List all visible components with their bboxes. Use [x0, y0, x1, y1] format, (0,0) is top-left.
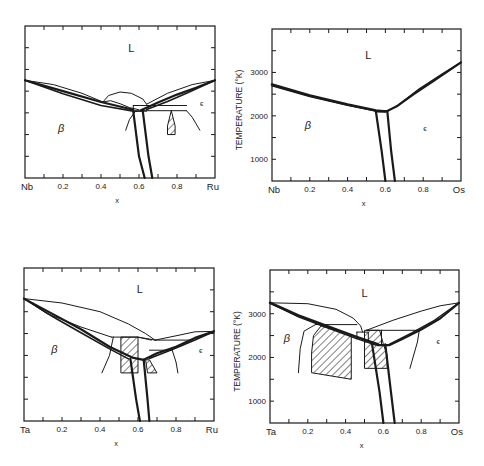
x-tick-label: 0.4 — [95, 182, 107, 191]
two-phase-hatched-region — [121, 337, 138, 373]
x-tick-label: 0.2 — [57, 182, 69, 191]
panel-ta-ru: 0.20.40.60.8TaRuxLβϵ — [20, 268, 218, 448]
phase-boundary-line — [272, 85, 385, 112]
phase-region-label: L — [361, 287, 367, 299]
y-axis-label: TEMPERATURE (°K) — [234, 69, 244, 150]
phase-boundary-line — [24, 299, 129, 359]
phase-region-label: ϵ — [200, 99, 204, 108]
x-tick-label: 0.8 — [418, 185, 430, 194]
phase-boundary-line — [389, 303, 459, 345]
phase-boundary-line — [410, 330, 419, 368]
plot-frame — [25, 26, 215, 178]
phase-diagram-figure: 0.20.40.60.8NbRuxLβϵ 0.20.40.60.8NbOsx10… — [0, 0, 484, 466]
panel-ta-os: 0.20.40.60.8TaOsx100020003000TEMPERATURE… — [232, 270, 463, 450]
x-tick-label: 0.8 — [171, 182, 183, 191]
phase-boundary-line — [143, 111, 153, 178]
phase-boundary-line — [187, 111, 200, 131]
x-tick-label: 0.6 — [133, 182, 145, 191]
x-tick-label: 0.8 — [170, 425, 182, 434]
two-phase-hatched-region — [146, 360, 157, 373]
two-phase-hatched-region — [168, 111, 176, 135]
y-axis-label: TEMPERATURE (°K) — [232, 311, 242, 392]
left-element-label: Ta — [20, 424, 31, 435]
y-tick-label: 1000 — [250, 155, 268, 164]
phase-region-label: ϵ — [423, 124, 427, 133]
phase-boundary-line — [103, 92, 147, 104]
phase-boundary-line — [366, 303, 459, 331]
phase-region-label: L — [128, 42, 134, 54]
x-tick-label: 0.2 — [56, 425, 68, 434]
x-tick-label: 0.4 — [340, 427, 352, 436]
right-element-label: Ru — [206, 424, 218, 435]
phase-region-label: L — [137, 283, 143, 295]
x-tick-label: 0.8 — [416, 427, 428, 436]
y-tick-label: 3000 — [250, 68, 268, 77]
phase-boundary-line — [149, 331, 214, 358]
phase-region-label: β — [57, 122, 65, 134]
phase-region-label: ϵ — [436, 337, 440, 346]
y-tick-label: 3000 — [248, 310, 266, 319]
x-tick-label: 0.2 — [304, 185, 316, 194]
x-tick-label: 0.6 — [132, 425, 144, 434]
phase-boundary-line — [387, 111, 395, 181]
phase-boundary-line — [25, 80, 133, 110]
y-tick-label: 2000 — [248, 353, 266, 362]
x-tick-label: 0.4 — [94, 425, 106, 434]
panel-nb-ru: 0.20.40.60.8NbRuxLβϵ — [21, 26, 219, 205]
phase-region-label: ϵ — [199, 346, 203, 355]
phase-region-label: β — [50, 343, 58, 355]
left-element-label: Ta — [266, 426, 277, 437]
phase-region-label: β — [283, 332, 291, 344]
phase-boundary-line — [133, 111, 146, 112]
panel-nb-os: 0.20.40.60.8NbOsx100020003000TEMPERATURE… — [234, 29, 465, 208]
y-tick-label: 2000 — [250, 112, 268, 121]
phase-region-label: β — [304, 119, 312, 131]
phase-boundary-line — [270, 303, 363, 332]
left-element-label: Nb — [21, 181, 33, 192]
x-tick-label: 0.6 — [380, 185, 392, 194]
phase-boundary-line — [376, 112, 386, 182]
right-element-label: Ru — [207, 181, 219, 192]
right-element-label: Os — [453, 184, 465, 195]
left-element-label: Nb — [268, 184, 280, 195]
x-tick-label: 0.6 — [378, 427, 390, 436]
x-axis-label: x — [115, 196, 119, 205]
phase-region-label: L — [365, 49, 371, 61]
x-tick-label: 0.2 — [302, 427, 314, 436]
y-tick-label: 1000 — [248, 397, 266, 406]
x-axis-label: x — [360, 441, 364, 450]
phase-boundary-line — [133, 112, 144, 178]
right-element-label: Os — [451, 426, 463, 437]
x-tick-label: 0.4 — [342, 185, 354, 194]
x-axis-label: x — [362, 199, 366, 208]
x-axis-label: x — [114, 439, 118, 448]
phase-boundary-line — [172, 350, 178, 373]
phase-boundary-line — [385, 344, 394, 423]
